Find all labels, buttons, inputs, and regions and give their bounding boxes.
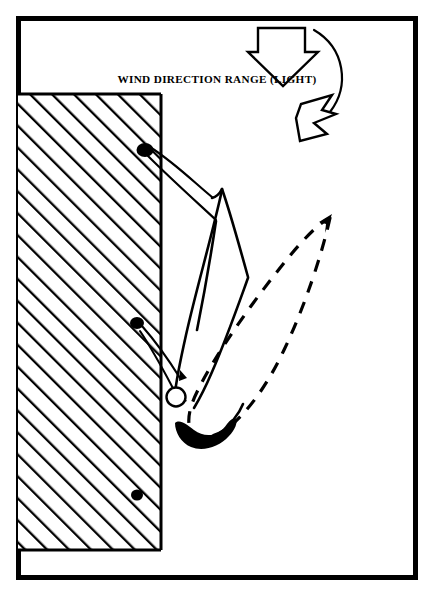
wind-direction-range-figure: WIND DIRECTION RANGE (LIGHT) [0, 0, 434, 608]
swing-range-loop [189, 218, 330, 437]
wind-direction-range-label: WIND DIRECTION RANGE (LIGHT) [117, 73, 316, 86]
diagram-canvas: WIND DIRECTION RANGE (LIGHT) [0, 0, 434, 608]
wind-arrow-lower-icon [296, 95, 336, 141]
anchor-point-lower [131, 490, 143, 501]
sail-leech [222, 189, 248, 277]
anchor-point-upper [137, 143, 154, 157]
luff-arrowhead-upper [179, 370, 187, 381]
boat-hull [175, 418, 237, 449]
mooring-buoy-icon [167, 388, 186, 407]
